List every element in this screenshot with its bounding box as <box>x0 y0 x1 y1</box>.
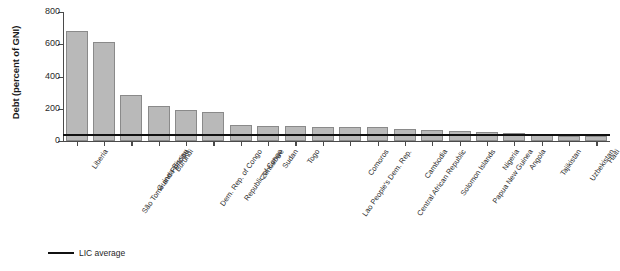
x-tick-mark <box>213 141 214 146</box>
x-tick-mark <box>323 141 324 146</box>
x-tick-mark <box>542 141 543 146</box>
x-axis-labels: LiberiaSão Tomé and PrincipeGuinea-Bissa… <box>63 148 610 210</box>
x-tick-mark <box>378 141 379 146</box>
plot-area: 0200400600800 <box>63 12 610 141</box>
x-tick-mark <box>77 141 78 146</box>
x-tick-mark <box>241 141 242 146</box>
x-tick-mark <box>460 141 461 146</box>
debt-percent-of-gni-bar-chart: Debt (percent of GNI) 0200400600800 Libe… <box>0 0 620 271</box>
x-tick-mark <box>432 141 433 146</box>
bar-dem-rep-of-congo <box>175 110 197 141</box>
x-tick-mark <box>514 141 515 146</box>
bar-republic-of-congo <box>202 112 224 141</box>
y-tick-label: 600 <box>45 38 60 48</box>
x-axis-label: Lao People's Dem. Rep. <box>361 148 413 218</box>
x-tick-mark <box>487 141 488 146</box>
x-tick-mark <box>596 141 597 146</box>
bar-series <box>63 12 610 141</box>
y-tick-label: 400 <box>45 71 60 81</box>
x-tick-mark <box>569 141 570 146</box>
x-axis-label: Comoros <box>367 148 390 177</box>
legend-swatch-lic-average <box>48 252 74 255</box>
x-axis-line <box>63 141 610 142</box>
x-axis-label: Liberia <box>90 148 109 170</box>
x-tick-mark <box>159 141 160 146</box>
x-tick-mark <box>268 141 269 146</box>
x-tick-mark <box>131 141 132 146</box>
x-tick-mark <box>186 141 187 146</box>
x-tick-mark <box>104 141 105 146</box>
y-tick-label: 0 <box>55 135 60 145</box>
x-axis-label: Tajikistan <box>559 148 583 177</box>
x-axis-label: Togo <box>306 148 321 165</box>
lic-average-reference-line <box>63 134 610 137</box>
x-tick-mark <box>405 141 406 146</box>
x-tick-mark <box>350 141 351 146</box>
bar-liberia <box>66 31 88 141</box>
y-tick-label: 200 <box>45 103 60 113</box>
bar-s-o-tom-and-principe <box>93 42 115 141</box>
legend-label-lic-average: LIC average <box>79 248 125 258</box>
y-axis-title-text: Debt (percent of GNI) <box>11 26 22 119</box>
y-axis-title: Debt (percent of GNI) <box>6 0 26 145</box>
y-tick-label: 800 <box>45 6 60 16</box>
chart-legend: LIC average <box>48 248 125 258</box>
x-tick-mark <box>295 141 296 146</box>
